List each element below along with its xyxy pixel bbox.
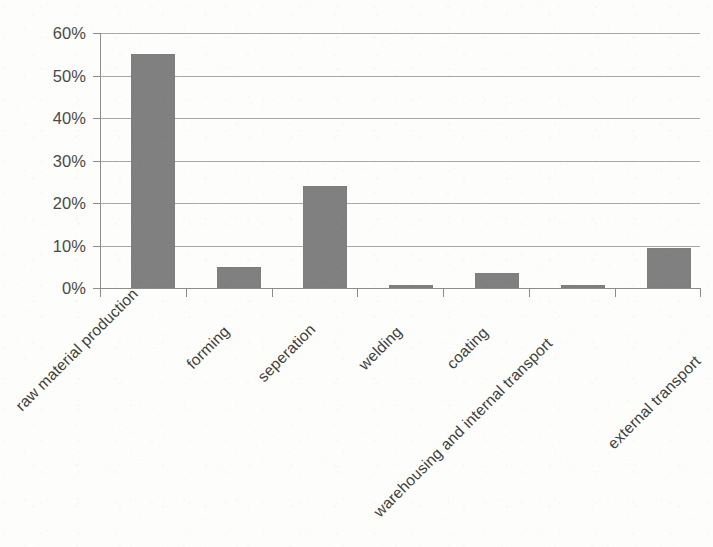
x-label-raw-material-production: raw material production bbox=[12, 285, 142, 415]
x-label-coating: coating bbox=[443, 324, 492, 373]
bar-chart: 60% 50% 40% 30% 20% 10% 0% raw material … bbox=[0, 0, 713, 547]
x-axis-category-labels: raw material production forming seperati… bbox=[0, 0, 713, 547]
x-label-seperation: seperation bbox=[254, 320, 319, 385]
x-label-external-transport: external transport bbox=[604, 352, 705, 453]
x-label-forming: forming bbox=[183, 322, 233, 372]
x-label-welding: welding bbox=[355, 323, 406, 374]
